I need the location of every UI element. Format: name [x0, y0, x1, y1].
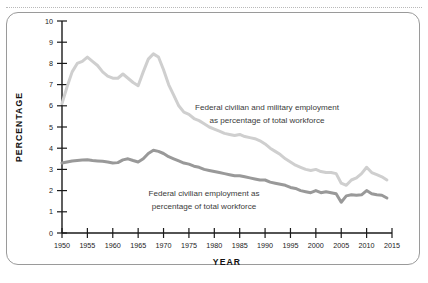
x-tick-label: 1960: [105, 241, 121, 250]
x-axis-title: YEAR: [213, 257, 241, 267]
x-tick-label: 1950: [54, 241, 70, 250]
y-tick-label: 7: [49, 80, 53, 89]
x-tick-label: 1990: [257, 241, 273, 250]
y-tick-label: 3: [49, 165, 53, 174]
y-tick-label: 6: [49, 101, 53, 110]
x-axis-ticks: 1950195519601965197019751980198519901995…: [54, 228, 400, 250]
x-tick-label: 1980: [206, 241, 222, 250]
y-axis-title: PERCENTAGE: [14, 92, 24, 162]
x-tick-label: 1970: [156, 241, 172, 250]
x-tick-label: 2000: [308, 241, 324, 250]
y-tick-label: 4: [49, 144, 53, 153]
x-tick-label: 1975: [181, 241, 197, 250]
y-tick-label: 1: [49, 207, 53, 216]
x-tick-label: 2005: [333, 241, 349, 250]
lower-series-annotation-line-1: Federal civilian employment as: [148, 189, 259, 198]
y-tick-label: 8: [49, 59, 53, 68]
y-tick-label: 2: [49, 186, 53, 195]
y-tick-label: 10: [45, 17, 53, 26]
chart-series-group: [62, 54, 387, 202]
upper-series-annotation: Federal civilian and military employment…: [195, 103, 340, 125]
chart-figure: 012345678910 195019551960196519701975198…: [0, 0, 428, 283]
x-tick-label: 1965: [130, 241, 146, 250]
upper-series-annotation-line-1: Federal civilian and military employment: [195, 103, 340, 112]
lower-series-annotation: Federal civilian employment as percentag…: [148, 189, 259, 211]
x-tick-label: 1995: [282, 241, 298, 250]
x-tick-label: 2015: [384, 241, 400, 250]
x-tick-label: 2010: [359, 241, 375, 250]
y-tick-label: 5: [49, 123, 53, 132]
x-tick-label: 1955: [79, 241, 95, 250]
x-tick-label: 1985: [232, 241, 248, 250]
chart-plot-area: 012345678910 195019551960196519701975198…: [0, 0, 428, 283]
y-tick-label: 0: [49, 229, 53, 238]
y-axis-ticks: 012345678910: [45, 17, 67, 238]
upper-series-annotation-line-2: as percentage of total workforce: [209, 116, 325, 125]
y-tick-label: 9: [49, 38, 53, 47]
lower-series-annotation-line-2: percentage of total workforce: [152, 202, 257, 211]
